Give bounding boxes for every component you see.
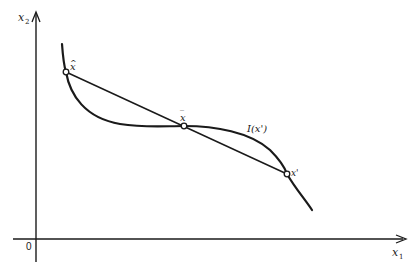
curve-label: I(x') xyxy=(246,123,267,134)
origin-label: 0 xyxy=(26,241,32,252)
x-axis-label: x xyxy=(392,246,399,259)
diagram-canvas: x 2 x 1 0 ^ x ‾ x x' I(x') xyxy=(0,0,417,271)
y-axis-label: x xyxy=(18,11,25,24)
label-x-prime: x' xyxy=(291,168,299,178)
label-x-bar: x xyxy=(180,112,186,123)
y-axis-label-subscript: 2 xyxy=(25,18,29,26)
x-axis xyxy=(13,235,406,243)
x-axis-label-subscript: 1 xyxy=(399,253,403,261)
point-x-hat xyxy=(63,69,69,75)
point-x-prime xyxy=(284,171,290,177)
label-x-hat: x xyxy=(70,61,76,72)
point-x-bar xyxy=(181,123,187,129)
y-axis xyxy=(32,12,40,262)
